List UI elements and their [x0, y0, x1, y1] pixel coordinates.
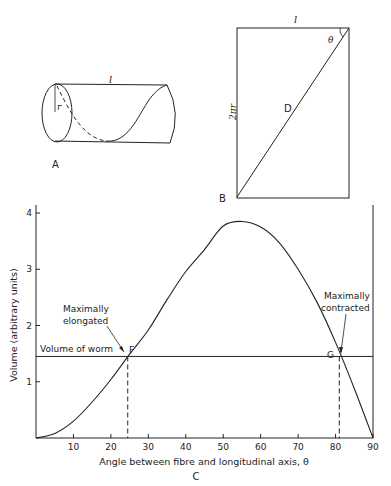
panel-b-label: B [219, 193, 226, 204]
y-tick-label: 3 [26, 264, 32, 274]
panel-a-radius-label: r [57, 102, 62, 112]
x-axis-label: Angle between fibre and longitudinal axi… [99, 456, 309, 467]
x-tick-label: 80 [330, 442, 342, 452]
panel-b-angle-label: θ [328, 35, 334, 45]
y-tick-label: 1 [26, 377, 32, 387]
y-ticks: 1234 [26, 208, 40, 387]
panel-c-chart: 1234 102030405060708090 Volume of worm F… [8, 205, 379, 482]
panel-a-label: A [52, 159, 59, 170]
y-tick-label: 2 [26, 321, 32, 331]
contracted-arrow [341, 314, 346, 352]
panel-b-diagonal-label: D [284, 103, 292, 114]
point-g-label: G [327, 350, 334, 360]
x-tick-label: 10 [68, 442, 80, 452]
panel-a-length-label: l [109, 74, 112, 85]
panel-b-rectangle: l θ D 2πr B [219, 14, 349, 204]
x-tick-label: 50 [217, 442, 229, 452]
y-axis-label: Volume (arbitrary units) [8, 268, 19, 382]
volume-curve [36, 221, 373, 438]
x-ticks: 102030405060708090 [68, 434, 379, 452]
volume-of-worm-label: Volume of worm [40, 344, 113, 354]
x-tick-label: 30 [143, 442, 155, 452]
figure: l r A l θ D 2πr B 1234 10203040506070809… [0, 0, 391, 486]
point-f-label: F [129, 345, 134, 355]
contracted-label-2: contracted [321, 303, 370, 313]
x-tick-label: 40 [180, 442, 192, 452]
x-tick-label: 60 [255, 442, 267, 452]
panel-a-cylinder: l r A [42, 74, 175, 170]
panel-c-label: C [193, 471, 200, 482]
x-tick-label: 70 [292, 442, 304, 452]
elongated-label-2: elongated [63, 316, 108, 326]
panel-b-side-label: 2πr [228, 103, 238, 121]
x-tick-label: 20 [105, 442, 117, 452]
x-tick-label: 90 [367, 442, 379, 452]
y-tick-label: 4 [26, 208, 32, 218]
elongated-label-1: Maximally [63, 304, 109, 314]
contracted-label-1: Maximally [324, 291, 370, 301]
elongated-arrowhead-icon [119, 346, 124, 352]
panel-b-top-label: l [294, 14, 297, 25]
